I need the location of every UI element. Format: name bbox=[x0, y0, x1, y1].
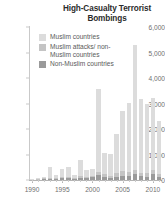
x-axis-minor-tick bbox=[50, 180, 51, 182]
bar-segment bbox=[60, 178, 64, 180]
bar-segment bbox=[48, 167, 52, 178]
bar-segment bbox=[90, 169, 94, 176]
chart-container: High-Casualty Terrorist Bombings 01,0002… bbox=[0, 0, 165, 208]
bar-segment bbox=[120, 176, 124, 180]
x-axis-minor-tick bbox=[80, 180, 81, 182]
bar-segment bbox=[139, 99, 143, 173]
bar-segment bbox=[72, 178, 76, 180]
x-axis-minor-tick bbox=[62, 180, 63, 182]
bar-segment bbox=[133, 170, 137, 175]
x-axis-tick-label: 2005 bbox=[115, 186, 130, 193]
bar-segment bbox=[151, 98, 155, 169]
bar-segment bbox=[108, 176, 112, 178]
x-axis-minor-tick bbox=[105, 180, 106, 182]
x-axis-minor-tick bbox=[123, 180, 124, 182]
bar-segment bbox=[36, 179, 40, 180]
bar-segment bbox=[145, 173, 149, 177]
bar-segment bbox=[102, 177, 106, 180]
bar-segment bbox=[157, 177, 161, 180]
bar-segment bbox=[66, 178, 70, 180]
bar-segment bbox=[30, 179, 34, 180]
bar-group bbox=[133, 27, 137, 180]
bar-segment bbox=[90, 177, 94, 180]
bar-segment bbox=[72, 178, 76, 179]
legend-item: Muslim attacks/ non-Muslim countries bbox=[39, 43, 115, 58]
bar-group bbox=[30, 27, 34, 180]
chart-legend: Muslim countriesMuslim attacks/ non-Musl… bbox=[39, 33, 115, 70]
x-axis-tick-label: 1995 bbox=[55, 186, 70, 193]
bar-group bbox=[114, 27, 118, 180]
bar-group bbox=[151, 27, 155, 180]
bar-segment bbox=[127, 176, 131, 180]
bar-segment bbox=[157, 121, 161, 175]
bar-segment bbox=[108, 178, 112, 180]
x-axis-minor-tick bbox=[111, 180, 112, 182]
bar-segment bbox=[139, 173, 143, 177]
x-axis-minor-tick bbox=[135, 180, 136, 182]
bar-segment bbox=[114, 134, 118, 174]
bar-segment bbox=[54, 175, 58, 178]
x-axis-tick-label: 2010 bbox=[146, 186, 161, 193]
bar-segment bbox=[60, 169, 64, 177]
bar-segment bbox=[139, 176, 143, 180]
legend-swatch-icon bbox=[39, 44, 46, 51]
x-axis-minor-tick bbox=[159, 180, 160, 182]
chart-title: High-Casualty Terrorist Bombings bbox=[52, 4, 162, 24]
bar-segment bbox=[114, 173, 118, 177]
bar-segment bbox=[42, 177, 46, 179]
bar-segment bbox=[78, 178, 82, 180]
bar-segment bbox=[102, 153, 106, 174]
x-axis-tick-label: 2000 bbox=[85, 186, 100, 193]
bar-segment bbox=[48, 178, 52, 180]
bar-segment bbox=[133, 174, 137, 180]
bar-segment bbox=[78, 160, 82, 176]
legend-swatch-icon bbox=[39, 61, 46, 68]
bar-segment bbox=[157, 174, 161, 177]
bar-segment bbox=[48, 178, 52, 179]
bar-segment bbox=[96, 172, 100, 175]
bar-segment bbox=[96, 175, 100, 180]
bar-group bbox=[120, 27, 124, 180]
bar-segment bbox=[84, 170, 88, 178]
bar-segment bbox=[90, 176, 94, 177]
bar-segment bbox=[102, 174, 106, 177]
x-axis-minor-tick bbox=[32, 180, 33, 182]
x-axis-minor-tick bbox=[99, 180, 100, 182]
x-axis-minor-tick bbox=[153, 180, 154, 182]
x-axis-minor-tick bbox=[44, 180, 45, 182]
x-axis-minor-tick bbox=[68, 180, 69, 182]
bar-segment bbox=[60, 177, 64, 178]
bar-segment bbox=[151, 174, 155, 180]
bar-segment bbox=[96, 89, 100, 172]
legend-swatch-icon bbox=[39, 34, 46, 41]
bar-group bbox=[139, 27, 143, 180]
bar-segment bbox=[42, 179, 46, 180]
bar-segment bbox=[108, 154, 112, 176]
bar-segment bbox=[151, 170, 155, 174]
x-axis-minor-tick bbox=[129, 180, 130, 182]
bar-group bbox=[145, 27, 149, 180]
x-axis-minor-tick bbox=[86, 180, 87, 182]
legend-label: Muslim attacks/ non-Muslim countries bbox=[50, 43, 115, 58]
bar-segment bbox=[145, 104, 149, 173]
x-axis-minor-tick bbox=[147, 180, 148, 182]
bar-segment bbox=[133, 45, 137, 170]
legend-item: Non-Muslim countries bbox=[39, 60, 115, 68]
x-axis-minor-tick bbox=[38, 180, 39, 182]
bar-segment bbox=[84, 178, 88, 180]
bar-segment bbox=[145, 177, 149, 180]
bar-group bbox=[157, 27, 161, 180]
x-axis-minor-tick bbox=[92, 180, 93, 182]
bar-segment bbox=[127, 103, 131, 172]
bar-segment bbox=[84, 177, 88, 178]
bar-segment bbox=[120, 171, 124, 176]
bar-segment bbox=[114, 177, 118, 180]
bar-segment bbox=[66, 177, 70, 178]
bar-segment bbox=[54, 178, 58, 179]
x-axis-tick-label: 1990 bbox=[25, 186, 40, 193]
x-axis-minor-tick bbox=[74, 180, 75, 182]
x-axis-minor-tick bbox=[117, 180, 118, 182]
legend-item: Muslim countries bbox=[39, 33, 115, 41]
bar-segment bbox=[36, 178, 40, 179]
x-axis-minor-tick bbox=[141, 180, 142, 182]
